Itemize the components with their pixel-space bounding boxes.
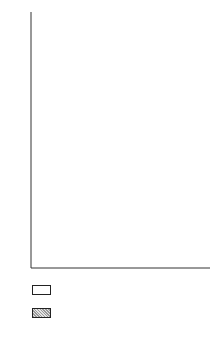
legend-swatch-hatched <box>32 308 51 318</box>
legend-item-prompted <box>32 305 55 318</box>
legend-item-spontaneous <box>32 282 55 295</box>
legend-swatch-white <box>32 285 51 295</box>
